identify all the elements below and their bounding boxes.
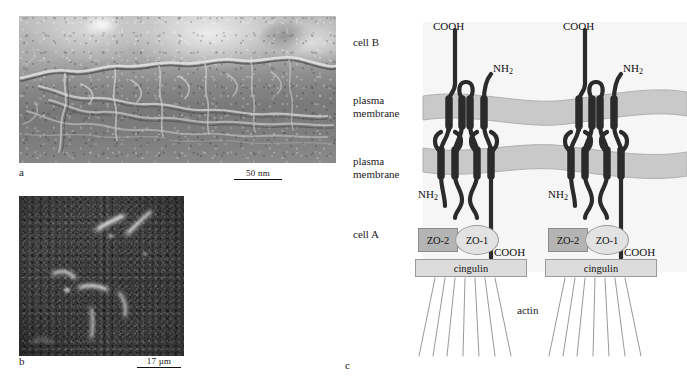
immunofluorescence-micrograph-image [19, 196, 184, 356]
panel-label-a: a [19, 166, 24, 178]
cooh-label-lower-right: COOH [624, 246, 655, 258]
scalebar-panel-b: 17 µm [137, 356, 181, 368]
zo1-left: ZO-1 [455, 225, 499, 255]
figure-root: 50 nm a [0, 0, 687, 390]
panel-a: 50 nm a [19, 16, 336, 163]
scalebar-label-panel-a: 50 nm [246, 168, 270, 179]
zo2-right: ZO-2 [548, 228, 588, 252]
panel-b: 17 µm b [19, 196, 184, 356]
zo2-left: ZO-2 [418, 228, 458, 252]
scalebar-line-panel-a [234, 179, 282, 180]
nh2-label-upper-right: NH2 [623, 62, 643, 74]
label-plasma-membrane-upper: plasma membrane [353, 94, 399, 119]
scalebar-label-panel-b: 17 µm [147, 356, 171, 367]
panel-label-b: b [19, 355, 25, 367]
cingulin-right: cingulin [545, 259, 657, 277]
scalebar-line-panel-b [137, 367, 181, 368]
nh2-label-upper-left: NH2 [493, 62, 513, 74]
nh2-label-lower-left: NH2 [418, 188, 438, 200]
label-cell-a: cell A [353, 228, 379, 241]
em-vignette [19, 16, 336, 163]
nh2-label-lower-right: NH2 [548, 188, 568, 200]
panel-label-c: c [345, 359, 350, 371]
cooh-label-upper-right: COOH [563, 20, 594, 32]
cingulin-left: cingulin [415, 259, 527, 277]
zo1-right: ZO-1 [585, 225, 629, 255]
label-plasma-membrane-lower: plasma membrane [353, 155, 399, 180]
label-cell-b: cell B [353, 36, 379, 49]
freeze-fracture-micrograph-image [19, 16, 336, 163]
diagram-labels: cell B plasma membrane plasma membrane c… [345, 0, 687, 390]
panel-c: cell B plasma membrane plasma membrane c… [345, 0, 687, 390]
cooh-label-upper-left: COOH [433, 20, 464, 32]
fluorescence-vignette [19, 196, 184, 356]
scalebar-panel-a: 50 nm [234, 168, 282, 180]
label-actin: actin [517, 304, 538, 316]
cooh-label-lower-left: COOH [494, 246, 525, 258]
